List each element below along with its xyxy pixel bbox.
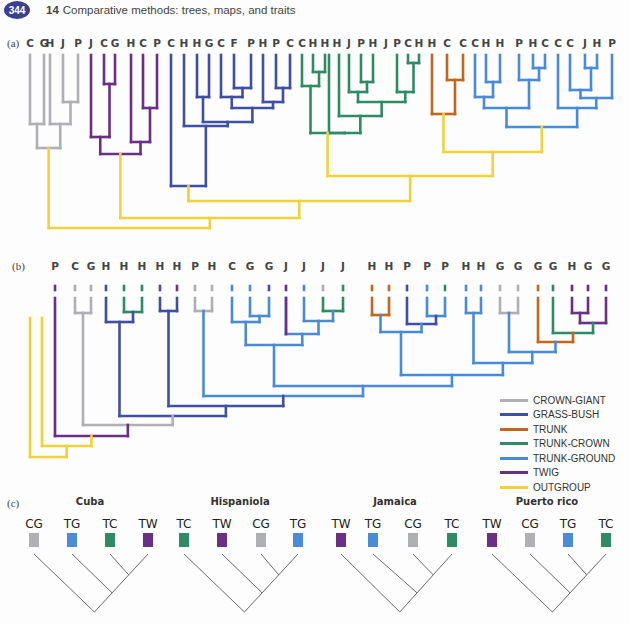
panel-c-label: (c) xyxy=(7,497,20,510)
clade-code: TG xyxy=(559,517,577,531)
clade-code: TC xyxy=(597,517,613,531)
legend-label: OUTGROUP xyxy=(533,482,591,493)
clade-code: CG xyxy=(521,517,539,531)
tip-label-b: C xyxy=(71,260,79,272)
legend-label: GRASS-BUSH xyxy=(533,409,599,420)
legend-swatch xyxy=(500,428,528,431)
tip-label-a: C xyxy=(554,37,562,49)
tip-label-b: G xyxy=(246,260,255,272)
tip-label-b: G xyxy=(602,260,611,272)
tree-branch xyxy=(568,554,587,575)
tip-label-a: P xyxy=(515,37,523,49)
tip-label-b: P xyxy=(441,260,449,272)
legend-swatch xyxy=(500,399,528,402)
tip-label-a: F xyxy=(230,37,237,49)
tip-label-a: P xyxy=(608,37,616,49)
tree-branch xyxy=(72,554,112,593)
tip-label-b: H xyxy=(368,260,377,272)
tip-label-a: H xyxy=(333,37,342,49)
tip-label-b: G xyxy=(496,260,505,272)
tree-branch xyxy=(110,554,129,575)
clade-code: TC xyxy=(175,517,191,531)
island-name: Puerto rico xyxy=(516,496,579,507)
tip-label-b: H xyxy=(156,260,165,272)
legend-label: CROWN-GIANT xyxy=(533,395,606,406)
tree-branch xyxy=(492,554,552,612)
tip-label-a: H xyxy=(321,37,330,49)
legend-item: TRUNK xyxy=(500,422,615,437)
legend-swatch xyxy=(500,413,528,416)
tree-branch xyxy=(34,554,94,612)
legend-item: TRUNK-GROUND xyxy=(500,451,615,466)
tip-label-a: P xyxy=(357,37,365,49)
clade-code: TW xyxy=(330,517,350,531)
tip-label-b: G xyxy=(534,260,543,272)
clade-code: TG xyxy=(364,517,382,531)
tip-label-b: H xyxy=(102,260,111,272)
tip-label-a: C xyxy=(298,37,306,49)
clade-swatch xyxy=(293,533,303,547)
tip-label-a: G xyxy=(111,37,120,49)
clade-code: TC xyxy=(443,517,459,531)
tip-label-b: H xyxy=(120,260,129,272)
tip-label-a: P xyxy=(247,37,255,49)
tip-label-a: H xyxy=(127,37,136,49)
tip-label-a: C xyxy=(541,37,549,49)
tip-label-a: H xyxy=(259,37,268,49)
legend-item: GRASS-BUSH xyxy=(500,408,615,423)
legend-item: CROWN-GIANT xyxy=(500,393,615,408)
tip-label-b: H xyxy=(173,260,182,272)
clade-code: TW xyxy=(481,517,501,531)
tip-label-a: H xyxy=(428,37,437,49)
tree-branch xyxy=(341,554,400,612)
tip-label-a: C xyxy=(217,37,225,49)
tip-label-a: H xyxy=(180,37,189,49)
tip-label-a: H xyxy=(369,37,378,49)
legend-swatch xyxy=(500,471,528,474)
panel-a-label: (a) xyxy=(7,37,20,50)
legend-item: TRUNK-CROWN xyxy=(500,437,615,452)
tip-label-a: J xyxy=(60,37,65,49)
tip-label-a: J xyxy=(346,37,351,49)
tip-label-b: P xyxy=(51,260,59,272)
clade-swatch xyxy=(67,533,77,547)
tip-label-a: C xyxy=(459,37,467,49)
clade-code: TG xyxy=(289,517,307,531)
tip-label-a: H xyxy=(46,37,55,49)
clade-code: TW xyxy=(211,517,231,531)
clade-code: CG xyxy=(404,517,422,531)
clade-swatch xyxy=(563,533,573,547)
tip-label-a: H xyxy=(593,37,602,49)
clade-code: TW xyxy=(137,517,157,531)
tip-label-a: P xyxy=(272,37,280,49)
tip-label-a: H xyxy=(193,37,202,49)
tip-label-b: H xyxy=(208,260,217,272)
tip-label-b: H xyxy=(568,260,577,272)
tip-label-b: G xyxy=(584,260,593,272)
tip-label-a: H xyxy=(482,37,491,49)
tip-label-a: C xyxy=(167,37,175,49)
tree-branch xyxy=(530,554,570,593)
tip-label-b: P xyxy=(191,260,199,272)
tip-label-a: C xyxy=(443,37,451,49)
tip-label-b: P xyxy=(403,260,411,272)
clade-code: CG xyxy=(252,517,270,531)
tip-label-a: J xyxy=(383,37,388,49)
tip-label-a: H xyxy=(529,37,538,49)
legend-item: OUTGROUP xyxy=(500,480,615,495)
clade-code: TG xyxy=(63,517,81,531)
tree-branch xyxy=(400,554,452,612)
legend-swatch xyxy=(500,486,528,489)
island-name: Cuba xyxy=(76,496,104,507)
tip-label-b: J xyxy=(340,260,345,272)
clade-swatch xyxy=(408,533,418,547)
tip-label-a: P xyxy=(153,37,161,49)
tip-label-a: C xyxy=(471,37,479,49)
tip-label-b: G xyxy=(87,260,96,272)
clade-swatch xyxy=(525,533,535,547)
tip-label-a: P xyxy=(393,37,401,49)
tip-label-b: G xyxy=(265,260,274,272)
panel-b-label: (b) xyxy=(12,260,25,273)
clade-swatch xyxy=(179,533,189,547)
island-name: Hispaniola xyxy=(210,496,269,507)
